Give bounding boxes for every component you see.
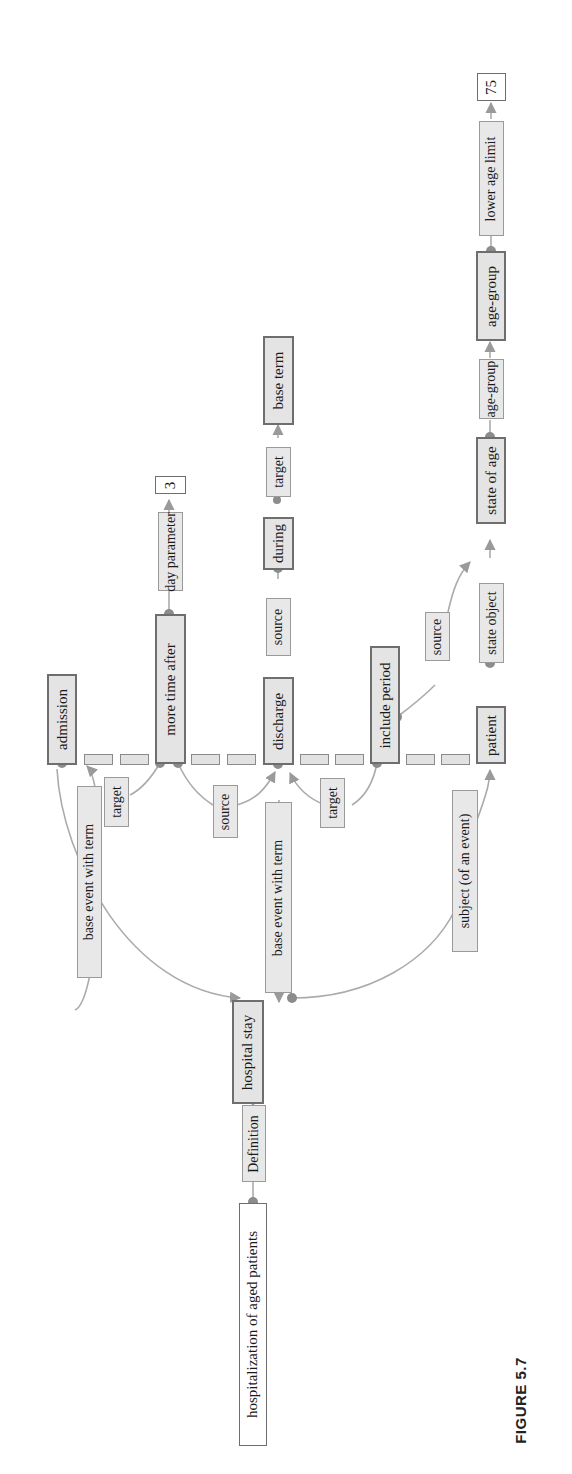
state-of-age-label: state of age [484,446,499,514]
day-parameter-label: day parameter [164,512,178,592]
separator-dash [191,754,220,765]
more-time-after-label: more time after [163,643,178,735]
value-3-label: 3 [163,481,178,489]
figure-caption: FIGURE 5.7 [500,1350,540,1450]
relation-source-2: source [266,598,291,656]
base-event-label-2: base event with term [272,839,286,955]
age-group-rel-label: age-group [485,361,499,418]
patient-label: patient [484,715,499,756]
separator-dash [300,754,329,765]
node-state-of-age: state of age [476,437,506,524]
value-75-label: 75 [484,80,499,95]
source-1-label: source [219,793,233,830]
node-base-term: base term [263,336,294,425]
admission-label: admission [55,689,70,750]
node-include-period: include period [370,646,400,764]
relation-subject-of-event: subject (of an event) [452,790,478,952]
node-admission: admission [47,674,77,765]
base-term-label: base term [271,352,286,410]
during-label: during [271,524,286,563]
node-more-time-after: more time after [155,614,186,764]
lower-age-limit-label: lower age limit [485,136,499,221]
separator-dash [335,754,364,765]
source-2-label: source [272,609,286,646]
node-during: during [263,517,294,570]
node-root-concept: hospitalization of aged patients [239,1203,267,1446]
relation-target-1: target [104,777,129,827]
age-group-label: age-group [484,266,499,327]
literal-value-75: 75 [477,73,506,101]
node-hospital-stay: hospital stay [232,1000,264,1104]
relation-base-event-with-term-discharge: base event with term [265,802,292,993]
include-period-label: include period [378,662,393,748]
concept-graph-diagram: hospitalization of aged patients Definit… [0,0,572,1474]
relation-target-2: target [266,447,291,497]
target-2-label: target [272,456,286,488]
relation-state-object: state object [479,583,504,663]
hospital-stay-label: hospital stay [241,1014,256,1089]
discharge-label: discharge [271,692,286,749]
definition-label: Definition [247,1115,261,1173]
relation-source-1: source [213,785,238,838]
separator-dash [227,754,256,765]
target-1-label: target [110,786,124,818]
relation-definition: Definition [242,1105,266,1182]
separator-dash [84,754,113,765]
node-patient: patient [476,706,506,764]
subject-label: subject (of an event) [458,814,472,929]
relation-lower-age-limit: lower age limit [479,121,504,236]
literal-value-3: 3 [155,476,186,494]
node-discharge: discharge [263,677,294,765]
base-event-label-1: base event with term [83,824,97,940]
relation-age-group: age-group [479,359,504,419]
node-age-group: age-group [476,251,506,341]
root-label: hospitalization of aged patients [246,1231,261,1418]
relation-base-event-with-term-admission: base event with term [77,786,102,978]
relation-source-3: source [425,612,450,661]
separator-dash [441,754,470,765]
source-3-label: source [431,618,445,655]
relation-target-3: target [320,778,345,828]
target-3-label: target [326,787,340,819]
separator-dash [406,754,435,765]
state-object-label: state object [485,591,499,654]
relation-day-parameter: day parameter [158,512,183,591]
figure-caption-text: FIGURE 5.7 [512,1357,529,1444]
separator-dash [120,754,149,765]
